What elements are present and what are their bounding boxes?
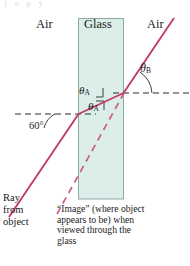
- angle-label-sixty-degrees: 60°: [29, 120, 44, 132]
- ray-from-object-label: Ray from object: [3, 192, 29, 227]
- ray-label-line-3: object: [3, 216, 29, 228]
- image-caption-line-4: glass: [57, 236, 144, 247]
- angle-label-theta-a-inside: θA: [88, 100, 99, 113]
- glass-slab-rect: [79, 19, 124, 200]
- theta-subscript: A: [93, 104, 98, 113]
- top-text-fragment: ) o p y: [4, 0, 46, 8]
- theta-subscript: B: [146, 66, 151, 75]
- theta-subscript: A: [84, 88, 89, 97]
- angle-label-theta-b: θB: [140, 62, 151, 75]
- angle-label-theta-a-incident: θA: [79, 84, 90, 97]
- region-label-air-right: Air: [147, 17, 164, 31]
- ray-label-line-1: Ray: [3, 192, 29, 204]
- region-label-glass: Glass: [84, 17, 112, 31]
- ray-label-line-2: from: [3, 204, 29, 216]
- region-label-air-left: Air: [36, 17, 53, 31]
- image-caption-block: “Image” (where object appears to be) whe…: [57, 204, 144, 247]
- angle-arc-sixty: [44, 114, 55, 128]
